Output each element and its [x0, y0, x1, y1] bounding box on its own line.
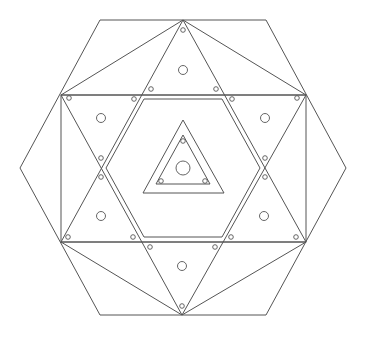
small-circle — [263, 175, 268, 180]
small-circle — [181, 139, 186, 144]
small-circle — [66, 235, 71, 240]
geometric-diagram — [0, 0, 367, 338]
small-circle — [294, 235, 299, 240]
top-fan-line — [183, 20, 306, 95]
bottom-fan-line — [61, 242, 182, 315]
small-circle — [181, 28, 186, 33]
small-circle — [159, 179, 164, 184]
small-circle — [149, 87, 154, 92]
large-circle — [261, 114, 270, 123]
large-circle — [179, 66, 188, 75]
small-circle — [229, 235, 234, 240]
small-circle — [131, 235, 136, 240]
small-circle — [99, 175, 104, 180]
small-circle — [295, 96, 300, 101]
small-circle — [230, 97, 235, 102]
small-circle — [148, 245, 153, 250]
small-circle — [99, 156, 104, 161]
center-triangle-inner — [156, 135, 210, 184]
small-circle — [67, 96, 72, 101]
small-circle — [263, 156, 268, 161]
small-circle — [180, 304, 185, 309]
center-triangle-outer — [143, 120, 224, 193]
star-triangle-down — [61, 95, 306, 315]
large-circle — [260, 212, 269, 221]
large-circle — [97, 114, 106, 123]
small-circle — [203, 179, 208, 184]
small-circle — [132, 97, 137, 102]
star-triangle-up — [61, 20, 306, 242]
large-circle — [178, 262, 187, 271]
large-circle — [97, 212, 106, 221]
bottom-fan-line — [182, 242, 306, 315]
large-circle — [176, 161, 190, 175]
small-circle — [214, 87, 219, 92]
small-circle — [213, 245, 218, 250]
